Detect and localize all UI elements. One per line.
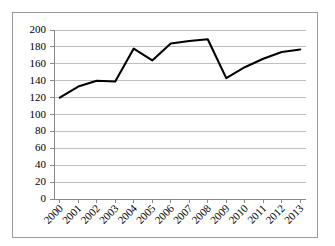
x-tick-label: 2003	[97, 202, 121, 226]
x-tick-label: 2008	[189, 202, 213, 226]
x-tick-label: 2009	[208, 202, 232, 226]
y-axis-tick-labels: 020406080100120140160180200	[30, 23, 47, 204]
y-tick-label: 80	[35, 124, 47, 136]
y-tick-label: 180	[30, 40, 47, 52]
x-tick-label: 2010	[226, 202, 250, 226]
x-tick-label: 2004	[115, 202, 139, 226]
x-tick-label: 2002	[78, 202, 102, 226]
y-tick-label: 100	[30, 108, 47, 120]
y-tick-label: 200	[30, 23, 47, 35]
x-axis-tick-marks	[60, 199, 301, 203]
y-tick-label: 160	[30, 57, 47, 69]
chart-figure: 020406080100120140160180200 200020012002…	[12, 12, 318, 238]
gridlines-group	[54, 30, 306, 182]
x-tick-label: 2007	[171, 202, 195, 226]
y-tick-label: 40	[35, 158, 47, 170]
data-series-line	[60, 39, 301, 97]
x-tick-label: 2006	[152, 202, 176, 226]
x-tick-label: 2012	[263, 202, 287, 226]
y-tick-label: 120	[30, 91, 47, 103]
y-tick-label: 20	[35, 175, 47, 187]
x-tick-label: 2000	[41, 202, 65, 226]
y-tick-label: 0	[41, 192, 47, 204]
x-tick-label: 2001	[60, 202, 84, 226]
y-tick-label: 60	[35, 141, 47, 153]
y-tick-label: 140	[30, 74, 47, 86]
x-tick-label: 2013	[282, 202, 306, 226]
x-tick-label: 2005	[134, 202, 158, 226]
x-axis-tick-labels: 2000200120022003200420052006200720082009…	[41, 202, 306, 226]
line-chart: 020406080100120140160180200 200020012002…	[13, 13, 319, 239]
y-axis-tick-marks	[50, 30, 54, 199]
x-tick-label: 2011	[245, 202, 269, 226]
